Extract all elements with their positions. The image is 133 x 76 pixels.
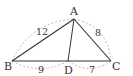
length-ac: 8 bbox=[95, 27, 101, 38]
segment-ad bbox=[68, 19, 74, 61]
label-d: D bbox=[64, 64, 73, 76]
length-bd: 9 bbox=[38, 64, 44, 75]
segment-ac bbox=[74, 19, 111, 61]
length-ab: 12 bbox=[36, 26, 48, 37]
length-dc: 7 bbox=[89, 64, 95, 75]
label-a: A bbox=[69, 5, 79, 18]
label-b: B bbox=[4, 60, 12, 73]
label-c: C bbox=[112, 60, 120, 73]
triangle-diagram: A B C D 12 8 9 7 bbox=[0, 0, 133, 76]
